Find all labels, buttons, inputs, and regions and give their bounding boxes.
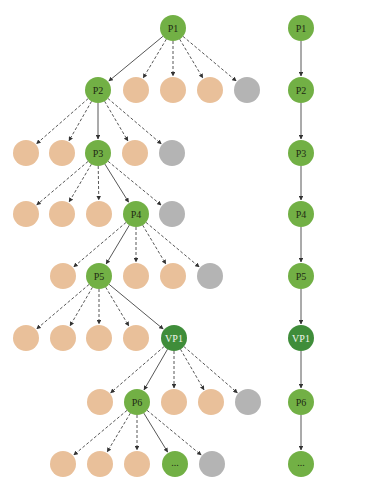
candidate-node: [49, 201, 75, 227]
candidate-node: [13, 140, 39, 166]
path-node-p2: P2: [85, 77, 111, 103]
node-circle: [161, 389, 187, 415]
pruned-node: [199, 451, 225, 477]
search-tree-diagram: P1P2P3P4P5VP1P6... P1P2P3P4P5VP1P6...: [0, 0, 385, 489]
dashed-edge: [70, 287, 92, 326]
node-circle: [199, 451, 225, 477]
node-circle: [124, 451, 150, 477]
node-label: VP1: [165, 333, 183, 344]
node-circle: [50, 263, 76, 289]
solid-edge: [144, 413, 168, 452]
candidate-node: [123, 77, 149, 103]
node-label: P1: [296, 23, 307, 34]
candidate-node: [86, 325, 112, 351]
node-circle: [87, 451, 113, 477]
path-node-p3: P3: [85, 140, 111, 166]
candidate-node: [49, 140, 75, 166]
path-node-p4: P4: [123, 201, 149, 227]
path-node-p2: P2: [288, 77, 314, 103]
dashed-edge: [98, 166, 99, 200]
candidate-node: [123, 325, 149, 351]
dashed-edge: [143, 225, 166, 264]
pruned-node: [197, 263, 223, 289]
candidate-node: [160, 77, 186, 103]
candidate-node: [87, 451, 113, 477]
node-label: VP1: [292, 333, 310, 344]
candidate-node: [198, 389, 224, 415]
node-label: P4: [131, 209, 142, 220]
dashed-edge: [180, 39, 203, 78]
candidate-node: [50, 263, 76, 289]
candidate-node: [122, 140, 148, 166]
path-node-p1: P1: [288, 15, 314, 41]
candidate-node: [50, 451, 76, 477]
path-node-p1: P1: [160, 15, 186, 41]
node-label: P2: [296, 85, 307, 96]
solid-edge: [105, 164, 129, 202]
dashed-edge: [74, 222, 126, 267]
node-circle: [50, 325, 76, 351]
candidate-node: [161, 389, 187, 415]
candidate-node: [13, 201, 39, 227]
left-tree-nodes: P1P2P3P4P5VP1P6...: [13, 15, 261, 477]
node-circle: [198, 389, 224, 415]
dashed-edge: [147, 410, 201, 455]
node-circle: [197, 263, 223, 289]
node-circle: [13, 201, 39, 227]
node-label: P3: [93, 148, 104, 159]
dashed-edge: [105, 101, 128, 141]
virtual-node-vp1: VP1: [161, 325, 187, 351]
node-circle: [123, 77, 149, 103]
candidate-node: [13, 325, 39, 351]
node-circle: [160, 77, 186, 103]
dashed-edge: [108, 161, 161, 205]
node-label: ...: [171, 457, 179, 468]
node-label: P4: [296, 209, 307, 220]
path-node-p6: P6: [288, 389, 314, 415]
candidate-node: [87, 389, 113, 415]
path-node-p5: P5: [86, 263, 112, 289]
node-circle: [123, 263, 149, 289]
pruned-node: [159, 201, 185, 227]
path-node-ellipsisellipsisellipsis: ...: [162, 451, 188, 477]
node-circle: [87, 389, 113, 415]
node-circle: [49, 140, 75, 166]
node-circle: [159, 140, 185, 166]
node-circle: [86, 201, 112, 227]
node-circle: [122, 140, 148, 166]
dashed-edge: [143, 39, 166, 78]
node-circle: [234, 77, 260, 103]
candidate-node: [86, 201, 112, 227]
virtual-node-vp1: VP1: [288, 325, 314, 351]
path-node-ellipsisellipsisellipsis: ...: [288, 451, 314, 477]
node-circle: [197, 77, 223, 103]
node-label: P1: [168, 23, 179, 34]
candidate-node: [197, 77, 223, 103]
path-node-p5: P5: [288, 263, 314, 289]
node-circle: [235, 389, 261, 415]
pruned-node: [234, 77, 260, 103]
dashed-edge: [181, 349, 204, 390]
node-circle: [123, 325, 149, 351]
node-circle: [159, 201, 185, 227]
node-circle: [13, 140, 39, 166]
node-label: P3: [296, 148, 307, 159]
path-node-p6: P6: [124, 389, 150, 415]
node-circle: [13, 325, 39, 351]
path-node-p4: P4: [288, 201, 314, 227]
dashed-edge: [184, 347, 238, 393]
node-circle: [50, 451, 76, 477]
dashed-edge: [106, 287, 129, 326]
dashed-edge: [107, 413, 130, 452]
node-label: P5: [296, 271, 307, 282]
node-label: P6: [296, 397, 307, 408]
dashed-edge: [69, 164, 91, 202]
node-circle: [49, 201, 75, 227]
node-circle: [86, 325, 112, 351]
dashed-edge: [69, 101, 92, 141]
pruned-node: [159, 140, 185, 166]
node-label: ...: [297, 457, 305, 468]
candidate-node: [160, 263, 186, 289]
candidate-node: [124, 451, 150, 477]
node-label: P5: [94, 271, 105, 282]
